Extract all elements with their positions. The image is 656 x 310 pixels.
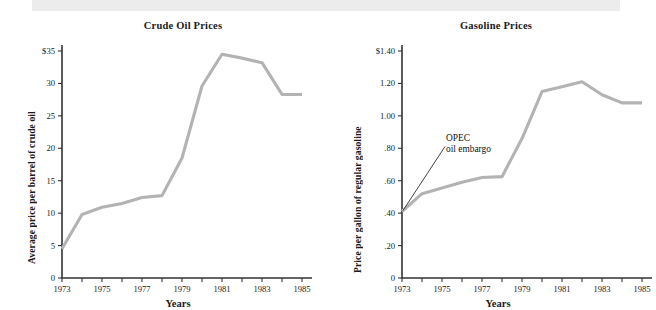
y-tick-label: 0 — [391, 273, 395, 283]
x-tick-label: 1975 — [93, 284, 110, 294]
axis-lines — [402, 45, 652, 278]
x-tick-label: 1983 — [253, 284, 270, 294]
y-tick-label: 1.00 — [380, 111, 395, 121]
x-tick-label: 1975 — [433, 284, 450, 294]
plot-svg-gasoline: 0.20.40.60.801.001.20$1.4019731975197719… — [360, 33, 645, 293]
x-tick-label: 1983 — [593, 284, 610, 294]
chart-title-gasoline: Gasoline Prices — [330, 20, 656, 31]
y-tick-label: $35 — [42, 46, 55, 56]
y-tick-label: 1.20 — [380, 78, 395, 88]
x-axis-label-gasoline: Years — [398, 298, 598, 309]
y-tick-label: 25 — [46, 111, 55, 121]
x-tick-label: 1981 — [553, 284, 570, 294]
y-tick-label: 10 — [46, 208, 55, 218]
y-tick-label: .40 — [384, 208, 395, 218]
y-tick-label: 0 — [51, 273, 55, 283]
y-tick-label: 5 — [51, 241, 55, 251]
x-tick-label: 1985 — [293, 284, 310, 294]
chart-panel-crude-oil: Crude Oil Prices Average price per barre… — [0, 11, 330, 310]
y-tick-label: 15 — [46, 176, 55, 186]
x-tick-label: 1977 — [133, 284, 151, 294]
x-tick-label: 1979 — [173, 284, 190, 294]
y-tick-label: $1.40 — [376, 46, 395, 56]
annotation-text-line2: oil embargo — [446, 144, 491, 154]
x-tick-label: 1981 — [213, 284, 230, 294]
plot-area-crude-oil: 051015202530$351973197519771979198119831… — [40, 33, 320, 293]
page-top-band — [32, 0, 620, 11]
figure-two-line-charts: Crude Oil Prices Average price per barre… — [0, 11, 650, 310]
x-tick-label: 1977 — [473, 284, 491, 294]
data-series-line — [62, 54, 302, 249]
chart-title-crude-oil: Crude Oil Prices — [0, 20, 348, 31]
y-tick-label: 30 — [46, 78, 55, 88]
data-series-line — [402, 82, 642, 212]
y-tick-label: 20 — [46, 143, 55, 153]
chart-panel-gasoline: Gasoline Prices Price per gallon of regu… — [330, 11, 650, 310]
y-tick-label: .60 — [384, 176, 395, 186]
x-tick-label: 1973 — [53, 284, 70, 294]
y-tick-label: .20 — [384, 241, 395, 251]
x-tick-label: 1979 — [513, 284, 530, 294]
x-axis-label-crude-oil: Years — [78, 298, 278, 309]
annotation-text-line1: OPEC — [446, 133, 470, 143]
x-tick-label: 1973 — [393, 284, 410, 294]
y-tick-label: .80 — [384, 143, 395, 153]
annotation-leader-line — [403, 147, 445, 211]
x-tick-label: 1985 — [633, 284, 650, 294]
y-axis-label-crude-oil: Average price per barrel of crude oil — [26, 59, 37, 264]
plot-svg-crude-oil: 051015202530$351973197519771979198119831… — [40, 33, 320, 293]
plot-area-gasoline: 0.20.40.60.801.001.20$1.4019731975197719… — [360, 33, 645, 293]
